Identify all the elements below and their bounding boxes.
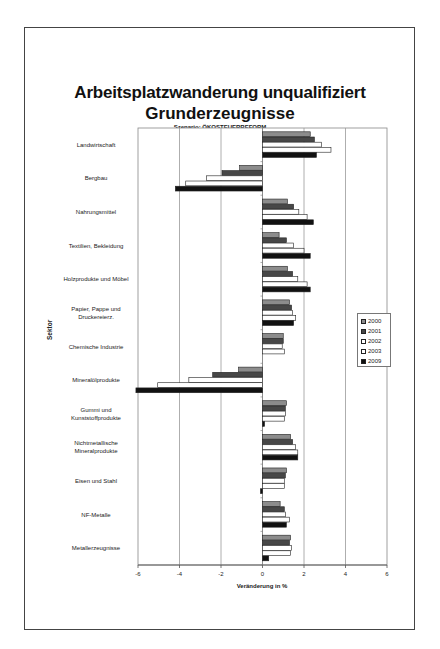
- category-label: Druckereierz.: [78, 314, 114, 320]
- bar-2000: [263, 334, 284, 339]
- bar-2000: [240, 165, 263, 170]
- legend-swatch: [361, 329, 366, 334]
- bar-2003: [158, 383, 263, 388]
- category-label: Kunststoffprodukte: [71, 415, 122, 421]
- bar-2002: [263, 512, 286, 517]
- category-label: Mineralölprodukte: [72, 377, 120, 383]
- bar-2003: [263, 282, 308, 287]
- x-tick-label: 6: [385, 571, 389, 577]
- bar-2002: [263, 478, 285, 483]
- legend-item: 2009: [361, 356, 390, 366]
- bar-2009: [263, 287, 311, 292]
- bar-2001: [263, 137, 315, 142]
- x-tick-label: 0: [261, 571, 265, 577]
- bar-2001: [263, 440, 293, 445]
- bar-2000: [263, 401, 287, 406]
- bar-2002: [206, 176, 262, 181]
- legend: 20002001200220032009: [357, 313, 391, 367]
- bar-2001: [263, 238, 287, 243]
- legend-item: 2000: [361, 316, 390, 326]
- bar-2001: [263, 339, 284, 344]
- bar-2003: [263, 517, 290, 522]
- category-label: Gummi und: [80, 407, 111, 413]
- category-label: Chemische Industrie: [69, 344, 124, 350]
- bar-2001: [263, 204, 294, 209]
- bar-2009: [175, 186, 262, 191]
- bar-2003: [263, 315, 296, 320]
- category-label: Textilien, Bekleidung: [69, 243, 124, 249]
- bar-2009: [263, 321, 294, 326]
- bar-2001: [263, 305, 292, 310]
- category-label: Bergbau: [85, 175, 108, 181]
- bar-2002: [263, 243, 294, 248]
- category-label: Nahrungsmittel: [76, 209, 116, 215]
- legend-swatch: [361, 319, 366, 324]
- bar-2003: [263, 248, 305, 253]
- bar-2001: [263, 540, 290, 545]
- legend-item: 2003: [361, 346, 390, 356]
- y-axis-label: Sektor: [46, 320, 53, 340]
- bar-2009: [263, 153, 317, 158]
- x-tick-label: -4: [177, 571, 183, 577]
- bar-2002: [263, 142, 322, 147]
- bar-2000: [263, 199, 288, 204]
- bar-2009: [263, 253, 311, 258]
- category-label: Landwirtschaft: [77, 142, 116, 148]
- bar-2001: [263, 271, 293, 276]
- bar-2001: [263, 507, 285, 512]
- bar-2000: [263, 233, 280, 238]
- bar-2002: [263, 546, 292, 551]
- bar-2002: [263, 411, 286, 416]
- legend-swatch: [361, 359, 366, 364]
- category-label: Eisen und Stahl: [75, 478, 117, 484]
- bar-2000: [239, 367, 263, 372]
- category-label: Metallerzeugnisse: [72, 545, 121, 551]
- legend-item: 2001: [361, 326, 390, 336]
- bar-2003: [263, 215, 308, 220]
- legend-label: 2009: [368, 358, 381, 364]
- legend-label: 2003: [368, 348, 381, 354]
- bar-2009: [263, 422, 265, 427]
- bar-2002: [263, 310, 293, 315]
- bar-2002: [189, 378, 263, 383]
- category-label: Mineralprodukte: [74, 448, 118, 454]
- legend-label: 2002: [368, 338, 381, 344]
- bar-2003: [263, 416, 285, 421]
- bar-2002: [263, 277, 298, 282]
- bar-2000: [263, 266, 288, 271]
- bar-2009: [263, 455, 298, 460]
- bar-2001: [263, 473, 286, 478]
- legend-swatch: [361, 339, 366, 344]
- category-label: Nichtmetallische: [74, 440, 118, 446]
- category-label: Papier, Pappe und: [71, 306, 120, 312]
- x-tick-label: -6: [135, 571, 141, 577]
- bar-2003: [263, 450, 298, 455]
- bar-2003: [263, 349, 285, 354]
- bar-2002: [263, 445, 296, 450]
- bar-2002: [263, 344, 283, 349]
- legend-label: 2000: [368, 318, 381, 324]
- category-label: NF-Metalle: [81, 512, 111, 518]
- legend-swatch: [361, 349, 366, 354]
- legend-label: 2001: [368, 328, 381, 334]
- bar-2009: [263, 556, 269, 561]
- x-tick-label: -2: [218, 571, 224, 577]
- legend-item: 2002: [361, 336, 390, 346]
- bar-2003: [263, 147, 331, 152]
- bar-2000: [263, 434, 291, 439]
- bar-2001: [213, 372, 263, 377]
- bar-2000: [263, 300, 290, 305]
- category-label: Holzprodukte und Möbel: [63, 276, 128, 282]
- bar-2009: [263, 220, 314, 225]
- bar-2003: [263, 551, 291, 556]
- bar-2009: [136, 388, 263, 393]
- x-axis-label: Veränderung in %: [0, 583, 440, 589]
- bar-2009: [260, 489, 262, 494]
- x-tick-label: 2: [302, 571, 306, 577]
- bar-2003: [186, 181, 263, 186]
- bar-2003: [263, 484, 285, 489]
- bar-2002: [263, 209, 299, 214]
- bar-2000: [263, 535, 291, 540]
- bar-2000: [263, 502, 281, 507]
- bar-2001: [222, 171, 262, 176]
